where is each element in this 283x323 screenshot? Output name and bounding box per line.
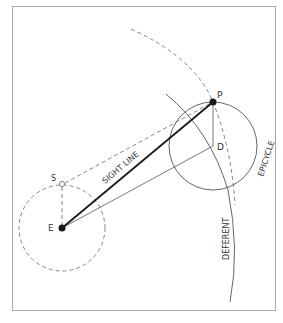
sun-point-s <box>59 181 64 186</box>
label-e: E <box>48 223 54 233</box>
label-p: P <box>217 90 223 100</box>
earth-point-e <box>59 225 66 232</box>
label-deferent: DEFERENT <box>222 218 231 260</box>
label-epicycle: EPICYCLE <box>256 139 276 177</box>
label-d: D <box>217 142 224 152</box>
deferent-arc <box>166 94 235 302</box>
sight-line <box>62 102 213 228</box>
s-p-dashed-line <box>65 102 213 183</box>
label-s: S <box>51 174 56 183</box>
epicycle-diagram: P D E S SIGHT LINE EPICYCLE DEFERENT <box>0 0 283 323</box>
planet-point-p <box>210 99 217 106</box>
